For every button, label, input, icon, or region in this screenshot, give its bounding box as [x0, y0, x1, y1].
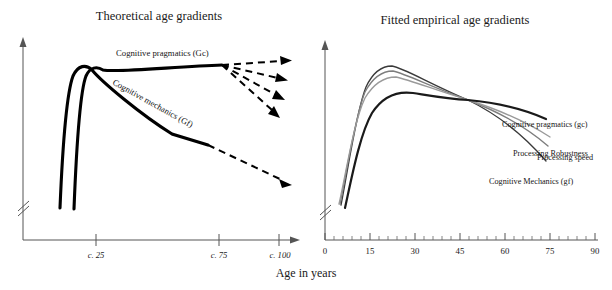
x-tick-label-90: 90 [591, 246, 600, 256]
x-tick-label-c75: c. 75 [211, 250, 228, 260]
x-tick-label-0: 0 [323, 246, 328, 256]
x-tick-label-45: 45 [456, 246, 465, 256]
x-tick-label-c100: c. 100 [269, 250, 291, 260]
curve-label-cognitive-pragmatics-gc: Cognitive pragmatics (Gc) [116, 48, 209, 58]
x-tick-label-15: 15 [366, 246, 375, 256]
x-tick-label-c25: c. 25 [88, 250, 105, 260]
shared-axis-title-age-in-years: Age in years [276, 266, 337, 280]
panel-title-empirical: Fitted empirical age gradients [381, 13, 530, 27]
x-tick-label-75: 75 [546, 246, 555, 256]
x-tick-label-60: 60 [501, 246, 510, 256]
figure-background [0, 0, 612, 290]
curve-label-processing-speed: Processing speed [537, 153, 593, 162]
curve-label-cognitive-mechanics-gf-empirical: Cognitive Mechanics (gf) [489, 177, 573, 186]
x-tick-label-30: 30 [411, 246, 420, 256]
panel-title-theoretical: Theoretical age gradients [96, 9, 222, 23]
curve-label-cognitive-pragmatics-gc-empirical: Cognitive pragmatics (gc) [502, 120, 588, 129]
two-panel-age-gradients-figure: Theoretical age gradients c. 25 c. 75 c.… [0, 0, 612, 290]
